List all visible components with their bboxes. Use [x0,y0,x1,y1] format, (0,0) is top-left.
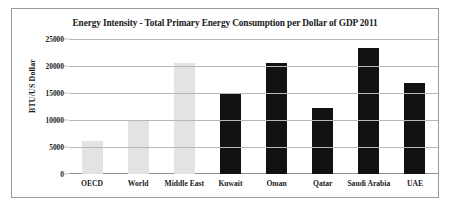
bar-kuwait[interactable] [220,93,241,174]
bars-layer [69,39,438,174]
y-tick-label: 20000 [46,62,64,71]
gridline [69,147,438,148]
x-tick-label-oecd: OECD [81,179,103,188]
x-tick-label-oman: Oman [266,179,286,188]
x-tick-label-qatar: Qatar [313,179,332,188]
x-tick-label-uae: UAE [407,179,423,188]
bar-qatar[interactable] [312,108,333,174]
plot-area: 2500020000150001000050000OECDWorldMiddle… [69,39,438,174]
chart-screenshot: Energy Intensity - Total Primary Energy … [0,0,450,209]
bar-uae[interactable] [404,83,425,174]
y-tick-mark [64,39,68,40]
chart-title: Energy Intensity - Total Primary Energy … [12,18,438,28]
y-tick-mark [64,147,68,148]
bar-oman[interactable] [266,63,287,174]
y-tick-mark [64,66,68,67]
y-axis-title: BTU/US Dollar [28,59,44,113]
y-tick-label: 15000 [46,89,64,98]
bar-middle-east[interactable] [174,63,195,174]
y-tick-mark [64,120,68,121]
x-tick-label-saudi-arabia: Saudi Arabia [347,179,390,188]
bar-saudi-arabia[interactable] [358,48,379,174]
y-tick-label: 10000 [46,116,64,125]
x-tick-label-world: World [128,179,149,188]
y-tick-label: 5000 [49,143,64,152]
x-tick-label-middle-east: Middle East [165,179,204,188]
gridline [69,93,438,94]
y-tick-label: 25000 [46,35,64,44]
gridline [69,39,438,40]
gridline [69,66,438,67]
figure-frame: Energy Intensity - Total Primary Energy … [11,8,439,198]
y-tick-mark [64,174,68,175]
gridline [69,120,438,121]
y-tick-label: 0 [60,170,64,179]
y-tick-mark [64,93,68,94]
x-tick-label-kuwait: Kuwait [218,179,242,188]
bar-oecd[interactable] [82,141,103,174]
